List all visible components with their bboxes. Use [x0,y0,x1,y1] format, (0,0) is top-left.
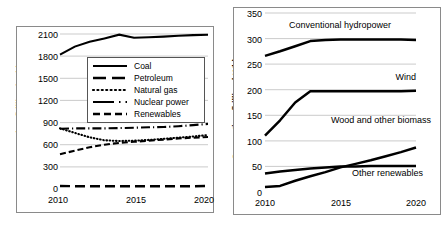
figure-container: Generation (billion kWh) 2100 1800 1500 … [0,0,448,227]
left-legend: Coal Petroleum Natural gas Nuclear power… [87,57,205,123]
right-series-conventional-hydropower [265,40,416,56]
left-ytick-300: 300 [16,163,58,172]
right-ytick-200: 200 [220,87,262,96]
right-label-wind: Wind [364,72,416,83]
right-xtick-2010: 2010 [247,199,283,208]
legend-label-coal: Coal [134,61,151,71]
legend-label-petroleum: Petroleum [134,73,173,83]
chart-panel-left: Generation (billion kWh) 2100 1800 1500 … [0,0,224,227]
left-series-coal [60,35,208,55]
left-xtick-2015: 2015 [118,196,154,205]
left-ytick-900: 900 [16,119,58,128]
left-series-nuclear-power [60,124,208,129]
left-ytick-1500: 1500 [16,75,58,84]
legend-symbol-natural-gas [91,85,129,95]
legend-symbol-renewables [91,109,129,119]
right-series-wind [265,91,416,136]
right-xtick-2020: 2020 [398,199,434,208]
left-series-natural-gas [60,128,208,141]
left-ytick-600: 600 [16,141,58,150]
right-ytick-300: 300 [220,36,262,45]
left-ytick-1800: 1800 [16,53,58,62]
left-xtick-2020: 2020 [186,196,222,205]
legend-item-renewables: Renewables [91,108,204,120]
right-label-other-renewables: Other renewables [352,168,412,179]
right-series-svg [265,13,416,192]
legend-item-petroleum: Petroleum [91,72,204,84]
right-ytick-0: 0 [220,189,262,198]
right-ytick-350: 350 [220,10,262,19]
chart-panel-right: Generation (billion kWh) 350 300 250 200… [224,0,448,227]
legend-item-natural-gas: Natural gas [91,84,204,96]
legend-symbol-petroleum [91,73,129,83]
right-xtick-2015: 2015 [323,199,359,208]
right-plot-area [265,13,416,192]
left-ytick-0: 0 [16,185,58,194]
left-ytick-1200: 1200 [16,97,58,106]
left-xtick-2010: 2010 [40,196,76,205]
legend-label-natural-gas: Natural gas [134,85,177,95]
right-ytick-100: 100 [220,138,262,147]
right-ytick-50: 50 [220,163,262,172]
legend-label-nuclear-power: Nuclear power [134,97,189,107]
legend-symbol-coal [91,61,129,71]
legend-item-nuclear-power: Nuclear power [91,96,204,108]
right-label-wood-and-other-biomass: Wood and other biomass [331,115,411,126]
left-series-renewables [60,137,208,154]
legend-item-coal: Coal [91,60,204,72]
legend-symbol-nuclear-power [91,97,129,107]
left-ytick-2100: 2100 [16,31,58,40]
right-gridlines [265,13,416,166]
right-ytick-250: 250 [220,61,262,70]
right-ytick-150: 150 [220,112,262,121]
legend-label-renewables: Renewables [134,109,181,119]
right-label-conventional-hydropower: Conventional hydropower [289,20,391,31]
